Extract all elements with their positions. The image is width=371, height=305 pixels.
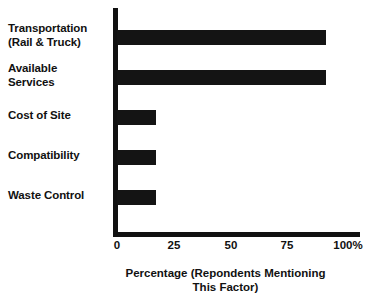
plot-area — [0, 0, 371, 305]
x-tick-75: 75 — [281, 239, 294, 251]
x-axis-title: Percentage (Repondents Mentioning This F… — [88, 266, 363, 294]
bar-waste-control — [117, 190, 156, 205]
x-axis-line — [113, 232, 360, 237]
bar-compatibility — [117, 150, 156, 165]
bar-transportation — [117, 30, 326, 45]
x-tick-0: 0 — [114, 239, 120, 251]
x-tick-25: 25 — [168, 239, 181, 251]
bar-available-services — [117, 70, 326, 85]
bar-cost-of-site — [117, 110, 156, 125]
bar-chart: Transportation (Rail & Truck) Available … — [0, 0, 371, 305]
x-tick-100: 100% — [333, 239, 362, 251]
x-tick-50: 50 — [225, 239, 238, 251]
